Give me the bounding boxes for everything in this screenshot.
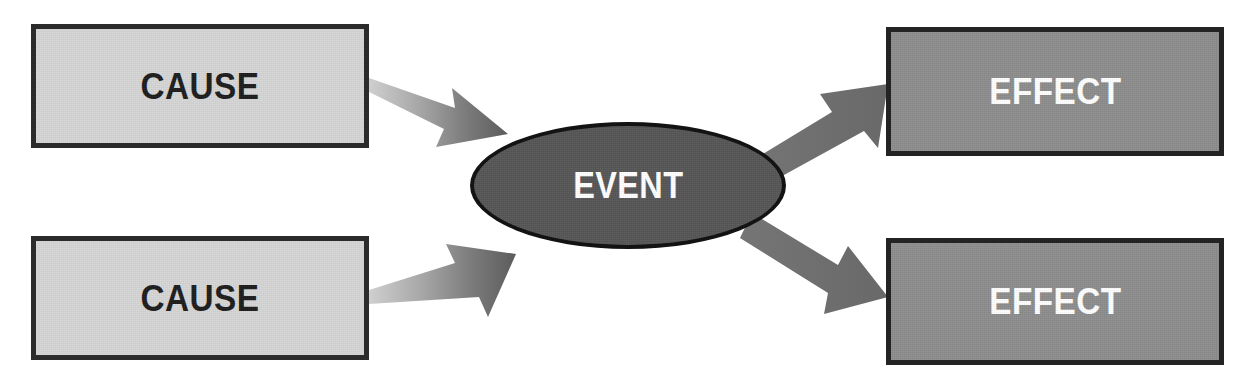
cause-box-bottom[interactable]: CAUSE: [31, 236, 369, 360]
arrow-cause-top-to-event: [369, 78, 508, 147]
cause-box-bottom-label: CAUSE: [141, 280, 260, 317]
effect-box-bottom-label: EFFECT: [989, 283, 1121, 320]
cause-box-top-label: CAUSE: [141, 68, 260, 105]
arrow-cause-bottom-to-event: [369, 244, 516, 317]
event-ellipse[interactable]: EVENT: [470, 122, 786, 249]
event-ellipse-label: EVENT: [573, 168, 683, 204]
effect-box-bottom[interactable]: EFFECT: [886, 238, 1224, 365]
arrow-event-to-effect-bottom: [740, 213, 888, 314]
cause-effect-diagram: CAUSE CAUSE EVENT EFFECT EFFECT: [0, 0, 1251, 390]
effect-box-top[interactable]: EFFECT: [886, 27, 1224, 156]
effect-box-top-label: EFFECT: [989, 73, 1121, 110]
cause-box-top[interactable]: CAUSE: [31, 24, 369, 148]
